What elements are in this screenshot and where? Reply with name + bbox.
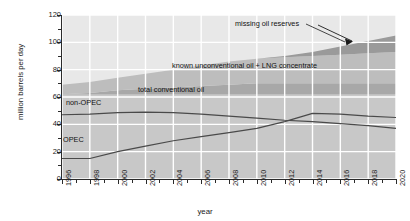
x-tick-minor	[243, 180, 244, 183]
annotation-opec: OPEC	[63, 136, 84, 144]
y-tick-minor	[58, 111, 61, 112]
x-tick-minor	[215, 180, 216, 183]
y-tick-label: 0	[57, 175, 61, 183]
annotation-non-opec: non-OPEC	[66, 99, 101, 107]
x-tick-label: 2008	[232, 170, 239, 186]
x-tick-label: 2010	[260, 170, 267, 186]
x-tick-label: 2016	[343, 170, 350, 186]
y-axis-title: million barrels per day	[17, 37, 25, 127]
y-tick-label: 100	[48, 38, 61, 46]
annotation-known-unconventional: known unconventional oil + LNG concentra…	[172, 62, 317, 70]
x-tick-major	[201, 180, 202, 184]
x-tick-minor	[132, 180, 133, 183]
y-tick-label: 120	[48, 11, 61, 19]
y-tick-minor	[58, 138, 61, 139]
x-tick-minor	[104, 180, 105, 183]
chart-figure: 020406080100120 199619982000200220042006…	[0, 0, 410, 221]
x-tick-minor	[354, 180, 355, 183]
x-tick-minor	[326, 180, 327, 183]
x-tick-minor	[271, 180, 272, 183]
x-axis-title: year	[0, 208, 410, 216]
x-tick-major	[368, 180, 369, 184]
x-tick-major	[257, 180, 258, 184]
chart-canvas	[62, 15, 396, 179]
y-tick-minor	[58, 165, 61, 166]
x-tick-label: 2006	[204, 170, 211, 186]
x-tick-major	[313, 180, 314, 184]
x-tick-minor	[159, 180, 160, 183]
x-tick-minor	[299, 180, 300, 183]
y-tick-minor	[58, 29, 61, 30]
x-tick-minor	[76, 180, 77, 183]
x-tick-minor	[187, 180, 188, 183]
x-tick-label: 2002	[149, 170, 156, 186]
x-tick-major	[118, 180, 119, 184]
x-tick-label: 2018	[371, 170, 378, 186]
y-tick-label: 60	[53, 93, 61, 101]
x-tick-minor	[382, 180, 383, 183]
y-tick-label: 20	[53, 148, 61, 156]
x-tick-label: 2000	[121, 170, 128, 186]
y-axis-line	[61, 15, 62, 180]
x-tick-label: 2020	[399, 170, 406, 186]
y-tick-label: 80	[53, 66, 61, 74]
x-tick-label: 1996	[65, 170, 72, 186]
annotation-total-conventional: total conventional oil	[138, 86, 204, 94]
x-tick-label: 2012	[288, 170, 295, 186]
y-tick-minor	[58, 56, 61, 57]
plot-area	[62, 15, 396, 179]
y-tick-label: 40	[53, 120, 61, 128]
x-tick-label: 1998	[93, 170, 100, 186]
x-tick-major	[62, 180, 63, 184]
x-tick-major	[396, 180, 397, 184]
x-tick-major	[285, 180, 286, 184]
x-tick-major	[229, 180, 230, 184]
annotation-missing-oil-reserves: missing oil reserves	[235, 20, 299, 28]
x-tick-label: 2004	[176, 170, 183, 186]
y-tick-minor	[58, 83, 61, 84]
x-tick-major	[90, 180, 91, 184]
x-tick-major	[146, 180, 147, 184]
x-tick-label: 2014	[316, 170, 323, 186]
